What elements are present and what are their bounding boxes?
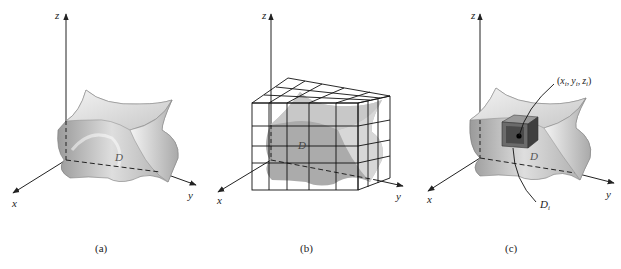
point-label-y-sub: i <box>576 80 578 88</box>
z-axis-label: z <box>471 10 475 21</box>
panel-c: z x y D (xi, yi, zi) Di (c) <box>410 0 621 269</box>
panel-a: z x y D (a) <box>0 0 210 269</box>
point-label: (xi, yi, zi) <box>557 76 591 88</box>
region-label: D <box>115 152 123 163</box>
partitioned-region-figure <box>200 0 420 269</box>
x-axis-label: x <box>427 194 432 205</box>
subregion-label: Di <box>540 199 550 212</box>
x-axis <box>218 160 271 192</box>
region-label: D <box>530 151 538 162</box>
y-axis-label: y <box>396 191 401 202</box>
z-axis-label: z <box>55 10 59 21</box>
panel-b: z x y D (b) <box>200 0 420 269</box>
point-label-close: ) <box>588 75 591 86</box>
region-d-figure <box>0 0 210 269</box>
solid-region <box>58 90 179 182</box>
x-axis <box>13 160 66 193</box>
solid-region <box>266 92 383 186</box>
x-axis <box>428 158 480 191</box>
subregion-label-sub: i <box>548 204 550 212</box>
x-axis-label: x <box>217 195 222 206</box>
subregion-figure <box>410 0 621 269</box>
y-axis-label: y <box>188 190 193 201</box>
caption-a: (a) <box>95 243 107 254</box>
x-axis-label: x <box>12 198 17 209</box>
y-axis <box>376 180 403 186</box>
point-label-x-sub: i <box>565 80 567 88</box>
z-axis-label: z <box>262 10 266 21</box>
caption-b: (b) <box>300 243 313 254</box>
y-axis-label: y <box>606 189 611 200</box>
region-label: D <box>298 140 306 151</box>
subregion-label-main: D <box>540 198 548 210</box>
caption-c: (c) <box>505 243 517 254</box>
